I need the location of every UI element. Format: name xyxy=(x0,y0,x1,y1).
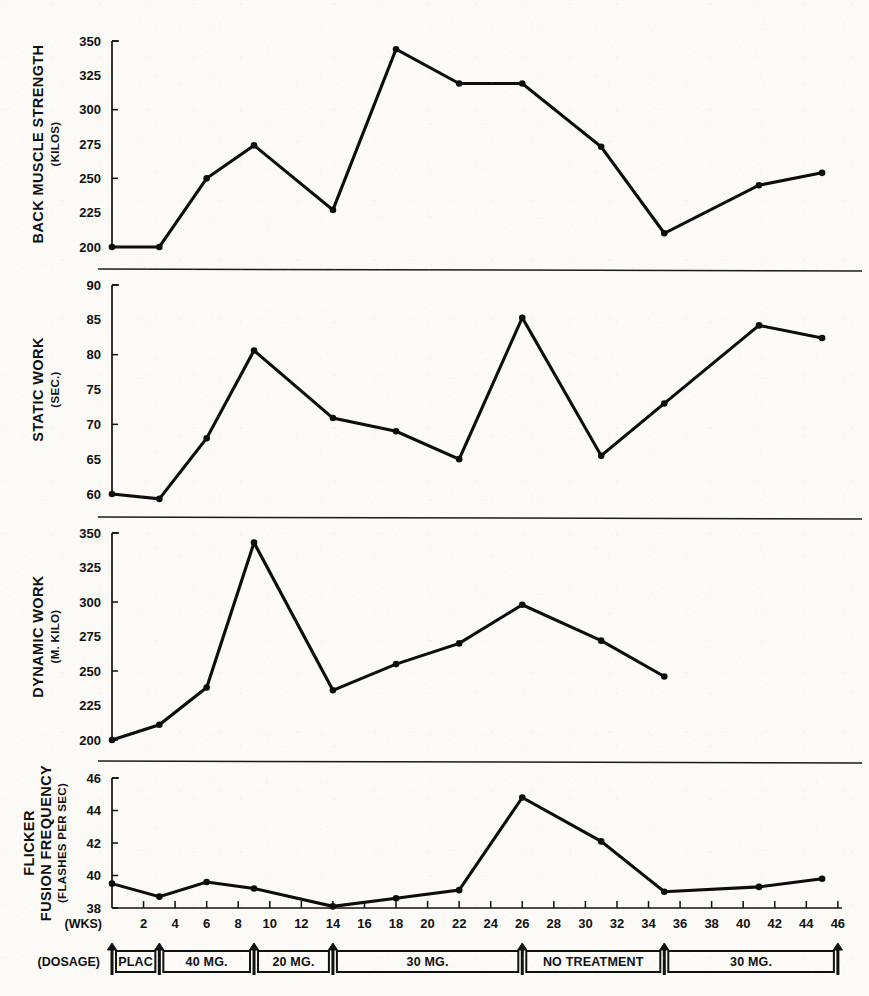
data-point xyxy=(661,673,668,680)
y-axis-title-line2: FUSION FREQUENCY xyxy=(38,765,54,921)
data-point xyxy=(251,885,258,892)
data-point xyxy=(156,893,163,900)
data-point xyxy=(519,794,526,801)
x-tick-label: 26 xyxy=(515,916,529,931)
x-tick-label: 2 xyxy=(140,916,147,931)
data-point xyxy=(203,879,210,886)
data-point xyxy=(251,142,258,149)
data-point xyxy=(598,452,605,459)
data-point xyxy=(251,347,258,354)
x-tick-label: 4 xyxy=(172,916,180,931)
dosage-period-label: 30 MG. xyxy=(730,955,772,969)
y-tick-label: 275 xyxy=(79,137,101,152)
y-axis-unit: (SEC.) xyxy=(49,371,61,407)
arrow-head xyxy=(833,943,842,950)
x-tick-label: 30 xyxy=(578,916,592,931)
dosage-timeline: PLAC40 MG.20 MG.30 MG.NO TREATMENT30 MG. xyxy=(107,943,842,975)
y-axis-title: DYNAMIC WORK xyxy=(30,575,46,698)
y-tick-label: 70 xyxy=(87,417,101,432)
y-tick-label: 325 xyxy=(79,68,101,83)
data-point xyxy=(393,46,400,53)
panel-dynamic-work: 200225250275300325350 xyxy=(79,526,667,748)
x-tick-label: 46 xyxy=(831,916,845,931)
y-tick-label: 350 xyxy=(79,34,101,49)
data-series-line xyxy=(112,798,822,907)
data-point xyxy=(598,143,605,150)
data-point xyxy=(251,539,258,546)
data-point xyxy=(109,244,116,251)
dosage-period-label: 20 MG. xyxy=(272,955,314,969)
x-tick-label: 12 xyxy=(294,916,308,931)
y-tick-label: 65 xyxy=(87,452,101,467)
dosage-period[interactable]: 30 MG. xyxy=(337,951,518,972)
x-tick-label: 24 xyxy=(483,916,498,931)
data-point xyxy=(519,80,526,87)
data-point xyxy=(203,435,210,442)
y-axis-title: STATIC WORK xyxy=(30,337,46,442)
x-tick-label: 10 xyxy=(263,916,277,931)
panel-static-work: 60657075808590 xyxy=(87,278,826,503)
y-tick-label: 75 xyxy=(87,382,101,397)
y-axis-title: BACK MUSCLE STRENGTH xyxy=(30,45,46,244)
y-axis-unit: (FLASHES PER SEC) xyxy=(56,783,68,903)
y-tick-label: 85 xyxy=(87,312,101,327)
x-tick-label: 34 xyxy=(641,916,656,931)
data-series-line xyxy=(112,543,664,740)
data-point xyxy=(819,875,826,882)
dosage-period[interactable]: NO TREATMENT xyxy=(526,951,660,972)
x-axis-label-wks: (WKS) xyxy=(65,917,103,931)
data-point xyxy=(661,888,668,895)
data-point xyxy=(109,491,116,498)
data-point xyxy=(598,838,605,845)
x-tick-label: 38 xyxy=(704,916,718,931)
x-tick-label: 6 xyxy=(203,916,210,931)
y-tick-label: 90 xyxy=(87,278,101,293)
dosage-period-label: 40 MG. xyxy=(186,955,228,969)
data-point xyxy=(203,175,210,182)
data-point xyxy=(519,601,526,608)
dosage-period[interactable]: 30 MG. xyxy=(668,951,834,972)
panel-separator xyxy=(98,761,862,763)
data-point xyxy=(156,244,163,251)
y-tick-label: 40 xyxy=(87,868,101,883)
y-tick-label: 250 xyxy=(79,171,101,186)
data-point xyxy=(519,314,526,321)
x-tick-label: 28 xyxy=(547,916,561,931)
data-point xyxy=(109,737,116,744)
arrow-head xyxy=(328,943,337,950)
dosage-period-label: PLAC xyxy=(118,955,153,969)
y-tick-label: 225 xyxy=(79,205,101,220)
panel-flicker-fusion-frequency: 3840424446 xyxy=(87,771,826,916)
y-tick-label: 200 xyxy=(79,240,101,255)
data-point xyxy=(756,884,763,891)
data-point xyxy=(756,322,763,329)
data-point xyxy=(109,880,116,887)
data-point xyxy=(456,80,463,87)
data-point xyxy=(330,687,337,694)
data-point xyxy=(756,182,763,189)
x-tick-label: 36 xyxy=(673,916,687,931)
figure-container: 200225250275300325350BACK MUSCLE STRENGT… xyxy=(0,0,869,996)
x-tick-label: 22 xyxy=(452,916,466,931)
y-tick-label: 60 xyxy=(87,487,101,502)
data-point xyxy=(456,640,463,647)
x-tick-label: 42 xyxy=(768,916,782,931)
data-series-line xyxy=(112,49,822,247)
arrow-head xyxy=(107,943,116,950)
x-tick-label: 32 xyxy=(610,916,624,931)
dosage-period[interactable]: PLAC xyxy=(116,951,155,972)
y-tick-label: 300 xyxy=(79,595,101,610)
x-tick-label: 8 xyxy=(235,916,242,931)
panel-separator xyxy=(98,517,862,519)
dosage-period[interactable]: 40 MG. xyxy=(163,951,250,972)
x-tick-label: 14 xyxy=(326,916,341,931)
y-axis-title-line1: FLICKER xyxy=(21,810,37,876)
data-point xyxy=(661,400,668,407)
dosage-period[interactable]: 20 MG. xyxy=(258,951,329,972)
data-point xyxy=(203,684,210,691)
data-point xyxy=(393,428,400,435)
y-tick-label: 275 xyxy=(79,629,101,644)
data-point xyxy=(819,335,826,342)
y-axis-unit: (KILOS) xyxy=(49,122,61,167)
arrow-head xyxy=(249,943,258,950)
